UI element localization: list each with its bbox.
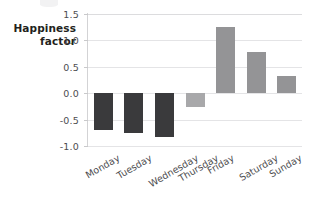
x-axis-tick-label-tuesday: Tuesday (115, 153, 153, 181)
x-axis-tick-label-monday: Monday (84, 153, 121, 180)
x-axis-tick-labels: MondayTuesdayWednesdayThursdayFridaySatu… (0, 0, 309, 202)
bar-chart-figure: Happiness factor 1.51.00.50.0-0.5-1.0 Mo… (0, 0, 309, 202)
